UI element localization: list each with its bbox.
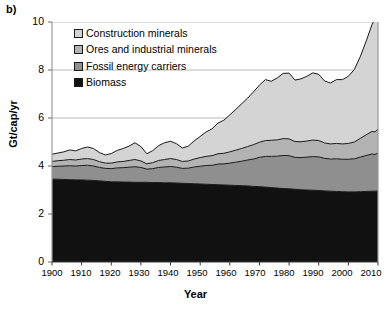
chart-figure: b) Gt/cap/yr Year 0 2 4 6 8 10 1900 1910… (0, 0, 391, 309)
y-axis-label: Gt/cap/yr (7, 79, 19, 169)
y-tick-10: 10 (14, 15, 44, 27)
x-axis-label: Year (0, 288, 391, 300)
legend-swatch-fossil-energy-carriers (74, 62, 83, 71)
chart-legend: Construction minerals Ores and industria… (74, 25, 217, 91)
legend-label-fossil-energy-carriers: Fossil energy carriers (86, 61, 186, 72)
legend-label-construction-minerals: Construction minerals (86, 28, 188, 39)
legend-swatch-ores-and-industrial-minerals (74, 45, 83, 54)
y-tick-8: 8 (14, 63, 44, 75)
legend-item-fossil-energy-carriers: Fossil energy carriers (74, 58, 217, 75)
legend-label-biomass: Biomass (86, 77, 126, 88)
x-tick-2010: 2010 (354, 267, 388, 278)
y-tick-2: 2 (14, 207, 44, 219)
panel-label: b) (6, 3, 16, 15)
legend-item-biomass: Biomass (74, 75, 217, 92)
legend-swatch-construction-minerals (74, 29, 83, 38)
legend-item-construction-minerals: Construction minerals (74, 25, 217, 42)
y-tick-6: 6 (14, 111, 44, 123)
y-tick-4: 4 (14, 159, 44, 171)
y-tick-0: 0 (14, 255, 44, 267)
legend-item-ores-and-industrial-minerals: Ores and industrial minerals (74, 42, 217, 59)
legend-label-ores-and-industrial-minerals: Ores and industrial minerals (86, 44, 217, 55)
legend-swatch-biomass (74, 78, 83, 87)
